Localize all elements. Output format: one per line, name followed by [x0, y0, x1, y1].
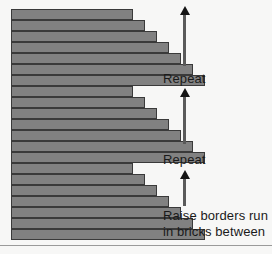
brick-course [11, 86, 133, 97]
brick-course-diagram [0, 0, 160, 254]
bottom-divider [0, 245, 272, 246]
brick-course [11, 97, 145, 108]
brick-group-base-bottom [0, 163, 160, 240]
annotation-column: Repeat Repeat Raise borders run in brick… [160, 0, 272, 254]
brick-course [11, 42, 169, 53]
brick-course [11, 31, 157, 42]
brick-course [11, 207, 181, 218]
brick-course-figure: Repeat Repeat Raise borders run in brick… [0, 0, 272, 254]
base-caption-line-2: in bricks between [163, 224, 268, 240]
brick-course [11, 53, 181, 64]
brick-course [11, 108, 157, 119]
brick-group-repeat-top [0, 9, 160, 86]
base-arrow-bottom-icon [183, 178, 186, 206]
brick-course [11, 185, 157, 196]
base-caption-line-1: Raise borders run [163, 208, 268, 224]
brick-course [11, 174, 145, 185]
brick-course [11, 130, 181, 141]
brick-course [11, 163, 133, 174]
repeat-arrow-middle-icon [183, 96, 186, 144]
brick-course [11, 9, 133, 20]
brick-course [11, 20, 145, 31]
brick-course [11, 119, 169, 130]
base-caption: Raise borders run in bricks between [163, 208, 268, 240]
repeat-label-middle: Repeat [163, 152, 206, 167]
repeat-arrow-top-icon [183, 14, 186, 66]
brick-group-repeat-middle [0, 86, 160, 163]
brick-course [11, 196, 169, 207]
repeat-label-top: Repeat [163, 71, 206, 86]
